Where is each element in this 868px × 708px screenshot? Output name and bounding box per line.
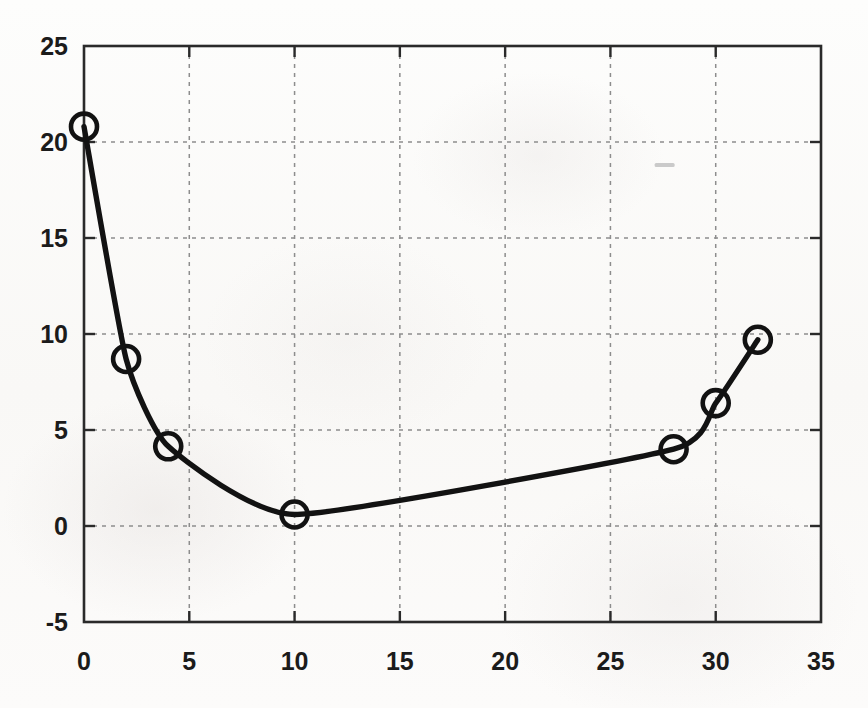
y-tick-label: 0 (54, 512, 68, 540)
y-tick-label: 5 (54, 416, 68, 444)
x-tick-label: 20 (491, 647, 519, 675)
y-tick-label: 10 (40, 320, 68, 348)
x-tick-label: 25 (597, 647, 625, 675)
chart-figure: 05101520253035-50510152025 (0, 0, 868, 708)
y-tick-label: -5 (46, 608, 68, 636)
x-tick-label: 0 (77, 647, 91, 675)
scan-artifact-dash (655, 163, 675, 167)
y-tick-label: 20 (40, 128, 68, 156)
x-tick-label: 15 (386, 647, 414, 675)
data-curve (84, 127, 758, 515)
x-tick-label: 10 (281, 647, 309, 675)
y-tick-label: 25 (40, 32, 68, 60)
x-tick-label: 5 (182, 647, 196, 675)
x-tick-label: 30 (702, 647, 730, 675)
x-tick-label: 35 (807, 647, 835, 675)
plot-canvas: 05101520253035-50510152025 (0, 0, 868, 708)
y-tick-label: 15 (40, 224, 68, 252)
